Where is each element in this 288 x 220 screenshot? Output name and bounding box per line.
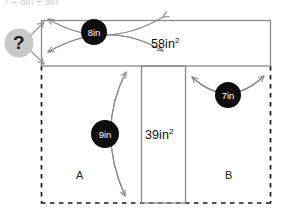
bubble-label-9in: 9in <box>93 130 117 140</box>
area-label-middle: 39in2 <box>145 128 174 142</box>
region-label-a: A <box>76 170 83 181</box>
region-label-b: B <box>225 170 232 181</box>
area-middle-exponent: 2 <box>169 127 174 136</box>
bubble-label-7in: 7in <box>216 91 240 101</box>
area-middle-value: 39in <box>145 128 169 142</box>
area-label-top: 58in2 <box>151 37 180 51</box>
area-top-value: 58in <box>151 37 175 51</box>
geometry-figure <box>0 0 288 220</box>
unknown-question-mark: ? <box>13 33 25 52</box>
area-top-exponent: 2 <box>175 36 180 45</box>
diagram-canvas: ? = 8in + 9in <box>0 0 288 220</box>
bubble-label-8in: 8in <box>82 28 106 38</box>
